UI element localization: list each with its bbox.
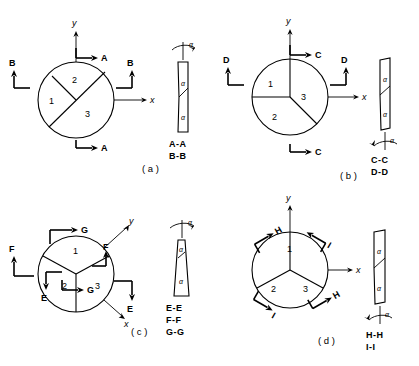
- panel-b-y-label: y: [285, 16, 291, 26]
- panel-b-caption: ( b ): [340, 170, 357, 181]
- panel-a-x-label: x: [149, 95, 155, 105]
- panel-d-mark-I-top-leader: [312, 235, 326, 243]
- panel-d-x-label: x: [355, 265, 361, 275]
- panel-d-caption: ( d ): [318, 335, 335, 346]
- panel-b-mark-D-right-arrow: [343, 67, 349, 74]
- panel-d-mark-I-bot-leader: [254, 300, 268, 308]
- panel-c-mark-G-inner-arrow: [77, 287, 84, 293]
- panel-c-sector-1: 1: [73, 246, 78, 256]
- panel-c-section-title-2: F-F: [166, 315, 182, 325]
- panel-d-mark-H-bot: H: [308, 285, 342, 313]
- panel-c-mark-E-right-label: E: [127, 304, 133, 314]
- panel-a-sector-3: 3: [85, 109, 90, 119]
- panel-d-mark-I-top-label: I: [326, 240, 333, 250]
- panel-b-section-title-2: D-D: [371, 167, 389, 177]
- panel-c-mark-F-inner-label: F: [103, 242, 109, 252]
- panel-c-x-label: x: [123, 319, 129, 329]
- panel-b-sector-2: 2: [272, 112, 277, 122]
- panel-d-mark-H-bot-label: H: [331, 289, 342, 301]
- panel-d-angle-symbol: α: [385, 311, 390, 318]
- panel-d-sector-2: 2: [271, 284, 276, 294]
- panel-b: 1 2 3 y x C C D D α α: [223, 16, 397, 181]
- section-diagram-figure: 1 2 3 y x A A B B α α: [0, 0, 419, 366]
- panel-c-caption: ( c ): [131, 326, 147, 337]
- panel-a-mark-A-bot-label: A: [101, 143, 108, 153]
- panel-c-divider-upper-right: [76, 256, 109, 274]
- panel-d-mark-H-bot-leader: [313, 301, 327, 309]
- panel-b-angle-symbol: α: [390, 137, 395, 144]
- panel-d-sector-1: 1: [287, 244, 292, 254]
- panel-b-sector-1: 1: [268, 79, 273, 89]
- panel-c-sector-3: 3: [95, 281, 100, 291]
- panel-b-mark-D-left-label: D: [223, 55, 230, 65]
- panel-d-mark-H-top-arrow: [266, 231, 275, 240]
- panel-d-y-label: y: [285, 193, 291, 203]
- panel-a-mark-A-bot-arrow: [91, 145, 98, 151]
- panel-b-mark-D-right-label: D: [341, 55, 348, 65]
- panel-c-mark-G-top-label: G: [81, 225, 88, 235]
- panel-c-mark-F-left-label: F: [9, 244, 15, 254]
- panel-a-mark-B-left-label: B: [9, 58, 16, 68]
- panel-b-mark-C-bot-arrow: [305, 149, 312, 155]
- panel-b-mark-C-bot-label: C: [315, 147, 322, 157]
- panel-c-mark-G-top-arrow: [71, 227, 78, 233]
- panel-c-mark-F-left-arrow: [11, 256, 17, 263]
- panel-d-mark-I-bot-label: I: [270, 311, 277, 321]
- panel-d-section-title-2: I-I: [366, 342, 376, 352]
- panel-b-mark-D-left-arrow: [225, 67, 231, 74]
- panel-b-x-label: x: [361, 92, 367, 102]
- panel-c-section-title-1: E-E: [166, 303, 183, 313]
- panel-a-caption: ( a ): [142, 163, 159, 174]
- panel-a-section-title-1: A-A: [169, 139, 187, 149]
- panel-c-mark-E-inner-arrow: [43, 283, 49, 290]
- panel-a-mark-B-right-label: B: [127, 58, 134, 68]
- panel-a-mark-A-top-arrow: [91, 55, 98, 61]
- panel-d: 1 2 3 y x H I I: [249, 193, 392, 352]
- panel-c-y-label: y: [128, 216, 134, 226]
- panel-b-sector-3: 3: [301, 92, 306, 102]
- panel-c-mark-E-inner-label: E: [41, 293, 47, 303]
- panel-a: 1 2 3 y x A A B B α α: [9, 18, 195, 174]
- panel-c-section-title-3: G-G: [166, 327, 185, 337]
- panel-a-sector-2: 2: [72, 75, 77, 85]
- panel-d-mark-H-bot-arrow: [324, 295, 333, 304]
- panel-a-sector-1: 1: [49, 96, 54, 106]
- panel-c-mark-G-inner-label: G: [87, 285, 94, 295]
- panel-d-mark-I-top: I: [302, 228, 333, 255]
- panel-a-mark-B-left-arrow: [11, 70, 17, 77]
- panel-c-mark-E-right-arrow: [129, 294, 135, 301]
- panel-a-section-title-2: B-B: [169, 151, 187, 161]
- panel-b-section-title-1: C-C: [371, 155, 389, 165]
- panel-b-mark-C-top-label: C: [315, 50, 322, 60]
- panel-a-mark-A-top-label: A: [101, 53, 108, 63]
- panel-d-mark-I-bot-arrow: [265, 304, 274, 313]
- panel-c: 1 2 3 y x G F E E F: [9, 216, 194, 337]
- panel-d-section-title-1: H-H: [366, 330, 384, 340]
- panel-c-x-axis: [104, 300, 122, 316]
- panel-a-y-label: y: [71, 18, 77, 28]
- panel-b-angle-arrow: [369, 140, 375, 146]
- panel-d-angle-arrow: [364, 314, 370, 320]
- panel-d-sector-3: 3: [303, 284, 308, 294]
- panel-a-mark-B-right-arrow: [129, 70, 135, 77]
- panel-d-mark-I-bot-stem: [254, 291, 259, 300]
- panel-b-mark-C-top-arrow: [305, 52, 312, 58]
